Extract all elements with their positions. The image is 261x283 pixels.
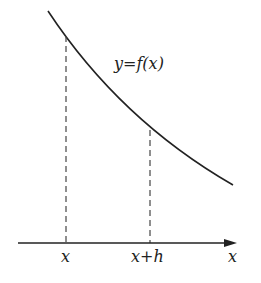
curve-label: y=f(x): [113, 54, 164, 73]
tick-label-x: x: [61, 247, 70, 266]
curve-f: [48, 11, 233, 185]
axis-label-x: x: [228, 247, 237, 266]
x-axis-arrow-icon: [224, 239, 237, 247]
diagram: y=f(x) x x+h x: [0, 0, 261, 283]
tick-label-x-plus-h: x+h: [131, 247, 164, 266]
